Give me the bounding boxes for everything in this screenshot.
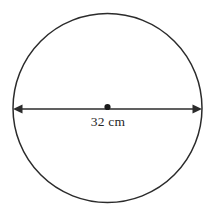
diameter-label: 32 cm	[91, 114, 126, 129]
circle-diagram-canvas: 32 cm	[0, 0, 215, 222]
figure-background	[0, 0, 215, 222]
center-point-dot	[104, 104, 110, 110]
geometry-figure: 32 cm	[0, 0, 215, 222]
